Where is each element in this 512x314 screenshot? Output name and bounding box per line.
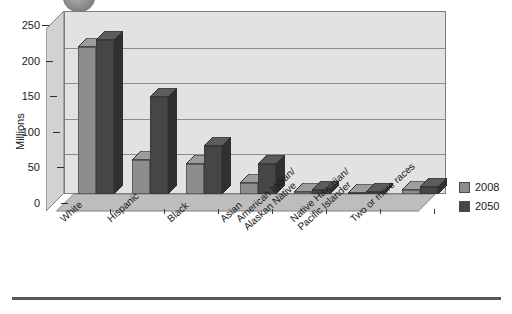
bar-white-2050 xyxy=(96,40,114,194)
y-tick-200: 200 xyxy=(0,55,40,67)
y-tick-250: 250 xyxy=(0,19,40,31)
chart-page: 250 200 150 100 50 0 Millions White Hisp… xyxy=(0,0,512,314)
x-tickmark-black xyxy=(218,209,219,214)
x-tickmark-hispanic xyxy=(164,209,165,214)
y-tickmark-150 xyxy=(50,96,57,97)
bar-two-or-more-2050 xyxy=(420,187,438,194)
y-axis-title: Millions xyxy=(14,113,26,150)
legend-label-2050: 2050 xyxy=(475,200,499,212)
x-tickmark-two-or-more xyxy=(434,209,435,214)
y-tick-0: 0 xyxy=(0,197,40,209)
y-tickmark-200 xyxy=(46,61,53,62)
legend-swatch-2050 xyxy=(459,201,470,212)
y-tick-150: 150 xyxy=(0,90,40,102)
bar-hispanic-2050 xyxy=(150,97,168,194)
y-tickmark-0 xyxy=(61,203,68,204)
bar-white-2008 xyxy=(78,47,96,194)
bar-native-hawaiian-2008 xyxy=(348,193,366,194)
chart-legend: 2008 2050 xyxy=(459,181,499,219)
bar-asian-2008 xyxy=(240,183,258,194)
legend-item-2050[interactable]: 2050 xyxy=(459,200,499,212)
bar-black-2008 xyxy=(186,164,204,194)
chart-side-wall xyxy=(46,11,65,211)
bar-black-2050 xyxy=(204,146,222,194)
y-tickmark-50 xyxy=(57,167,64,168)
bar-american-indian-2008 xyxy=(294,192,312,194)
x-tickmark-native-hawaiian xyxy=(380,209,381,214)
y-tickmark-250 xyxy=(42,25,49,26)
bar-hispanic-2008 xyxy=(132,160,150,194)
bar-two-or-more-2008 xyxy=(402,190,420,194)
bottom-divider xyxy=(12,297,501,300)
legend-label-2008: 2008 xyxy=(475,181,499,193)
y-tick-50: 50 xyxy=(0,161,40,173)
y-tickmark-100 xyxy=(53,132,60,133)
legend-item-2008[interactable]: 2008 xyxy=(459,181,499,193)
legend-swatch-2008 xyxy=(459,182,470,193)
